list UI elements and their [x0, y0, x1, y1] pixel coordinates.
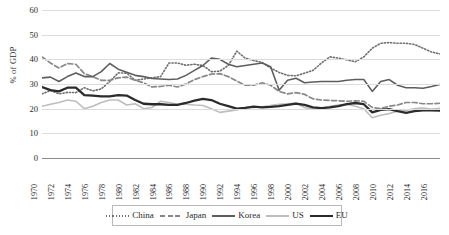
legend-label: Korea — [238, 211, 260, 220]
y-axis-tick-label: 50 — [16, 31, 38, 40]
x-axis-tick-label: 2010 — [370, 184, 378, 200]
x-axis-tick-label: 1996 — [251, 184, 259, 200]
legend-swatch-china-icon — [106, 212, 129, 219]
legend-swatch-korea-icon — [212, 212, 235, 219]
legend-label: EU — [336, 211, 348, 220]
legend-item-japan[interactable]: Japan — [157, 211, 210, 220]
x-axis-tick-labels: 1970197219741976197819801982198419861988… — [42, 160, 440, 200]
legend-item-china[interactable]: China — [103, 211, 157, 220]
legend-swatch-japan-icon — [160, 212, 183, 219]
x-axis-tick-label: 2014 — [403, 184, 411, 200]
x-axis-tick-label: 1986 — [166, 184, 174, 200]
gridline — [42, 158, 440, 159]
y-axis-tick-label: 20 — [16, 105, 38, 114]
x-axis-tick-label: 2008 — [353, 184, 361, 200]
x-axis-tick-label: 1994 — [234, 184, 242, 200]
legend-swatch-eu-icon — [310, 212, 333, 219]
legend-swatch-us-icon — [266, 212, 289, 219]
x-axis-tick-label: 2004 — [319, 184, 327, 200]
x-axis-tick-label: 1974 — [65, 184, 73, 200]
y-axis-tick-label: 60 — [16, 6, 38, 15]
gridline — [42, 109, 440, 110]
gridline — [42, 84, 440, 85]
y-axis-tick-label: 40 — [16, 55, 38, 64]
x-axis-tick-label: 1982 — [132, 184, 140, 200]
x-axis-tick-label: 2012 — [386, 184, 394, 200]
x-axis-tick-label: 1990 — [200, 184, 208, 200]
x-axis-tick-label: 1980 — [115, 184, 123, 200]
gridline — [42, 10, 440, 11]
x-axis-tick-label: 1984 — [149, 184, 157, 200]
legend-label: China — [132, 211, 154, 220]
plot-area — [42, 10, 440, 158]
x-axis-tick-label: 2002 — [302, 184, 310, 200]
chart-legend: ChinaJapanKoreaUSEU — [112, 205, 342, 226]
x-axis-tick-label: 2000 — [285, 184, 293, 200]
y-axis-tick-label: 0 — [16, 154, 38, 163]
legend-label: Japan — [186, 211, 207, 220]
legend-item-us[interactable]: US — [263, 211, 307, 220]
y-axis-tick-label: 30 — [16, 80, 38, 89]
gridline — [42, 133, 440, 134]
x-axis-tick-label: 2006 — [336, 184, 344, 200]
y-axis-tick-label: 10 — [16, 129, 38, 138]
x-axis-tick-label: 1998 — [268, 184, 276, 200]
gridline — [42, 59, 440, 60]
series-line-china — [42, 43, 440, 94]
line-chart: % of GDP 0102030405060 19701972197419761… — [0, 0, 449, 235]
x-axis-tick-label: 1992 — [217, 184, 225, 200]
x-axis-tick-label: 2016 — [420, 184, 428, 200]
x-axis-tick-label: 1976 — [82, 184, 90, 200]
legend-label: US — [292, 211, 304, 220]
x-axis-tick-label: 1978 — [99, 184, 107, 200]
legend-item-korea[interactable]: Korea — [209, 211, 263, 220]
legend-item-eu[interactable]: EU — [307, 211, 351, 220]
gridline — [42, 35, 440, 36]
x-axis-tick-label: 1970 — [31, 184, 39, 200]
series-line-korea — [42, 58, 440, 91]
x-axis-tick-label: 1972 — [48, 184, 56, 200]
x-axis-tick-label: 1988 — [183, 184, 191, 200]
